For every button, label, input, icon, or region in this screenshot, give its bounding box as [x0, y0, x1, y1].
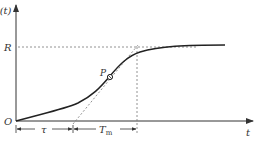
y-axis-label: y(t) — [0, 5, 12, 16]
step-response-diagram: y(t) t O R P τ Tm — [0, 0, 257, 141]
tangent-line — [73, 45, 138, 124]
origin-label: O — [4, 116, 12, 127]
inflection-point-label: P — [99, 68, 107, 78]
delay-label: τ — [41, 124, 47, 135]
time-constant-label: Tm — [99, 124, 113, 137]
steady-state-label: R — [3, 42, 12, 53]
x-axis-label: t — [246, 127, 251, 138]
time-constant-subscript: m — [106, 129, 113, 137]
response-curve — [16, 45, 225, 121]
